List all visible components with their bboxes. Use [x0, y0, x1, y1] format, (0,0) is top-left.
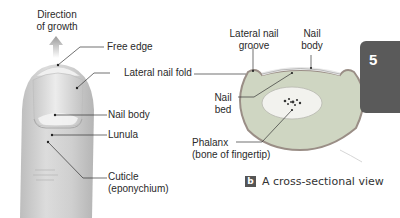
chapter-tab: 5	[360, 41, 400, 113]
label-lunula: Lunula	[108, 129, 138, 141]
growth-label-line2: of growth	[32, 21, 82, 33]
groove-line2: groove	[226, 40, 282, 52]
chapter-number: 5	[369, 51, 377, 68]
label-cuticle: Cuticle (eponychium)	[108, 171, 169, 195]
cuticle-line1: Cuticle	[108, 171, 169, 183]
label-lateral-nail-fold: Lateral nail fold	[124, 67, 192, 79]
figure-caption: b A cross-sectional view	[245, 175, 384, 188]
fingertip-illustration	[20, 64, 94, 218]
caption-text: A cross-sectional view	[262, 175, 384, 188]
label-nail-body-a: Nail body	[108, 109, 150, 121]
phalanx-line1: Phalanx	[192, 137, 270, 149]
label-free-edge: Free edge	[107, 41, 153, 53]
growth-label-line1: Direction	[32, 9, 82, 21]
label-nail-body-b: Nail body	[298, 28, 326, 52]
growth-direction-label: Direction of growth	[32, 9, 82, 33]
cuticle-line2: (eponychium)	[108, 183, 169, 195]
nail-body-b-line2: body	[298, 40, 326, 52]
nail-bed-line1: Nail	[210, 92, 236, 104]
groove-line1: Lateral nail	[226, 28, 282, 40]
growth-arrow-icon	[49, 36, 63, 58]
nail-bed-line2: bed	[210, 104, 236, 116]
caption-badge: b	[245, 176, 256, 187]
phalanx-line2: (bone of fingertip)	[192, 149, 270, 161]
label-phalanx: Phalanx (bone of fingertip)	[192, 137, 270, 161]
label-lateral-nail-groove: Lateral nail groove	[226, 28, 282, 52]
label-nail-bed: Nail bed	[210, 92, 236, 116]
nail-body-b-line1: Nail	[298, 28, 326, 40]
